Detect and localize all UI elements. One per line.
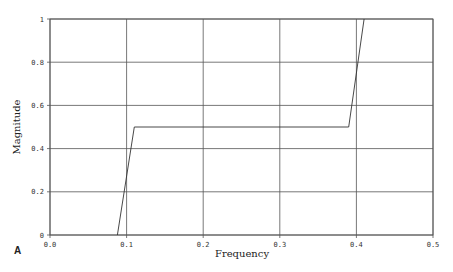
- x-axis-title: Frequency: [215, 248, 269, 259]
- x-tick-label: 0.1: [120, 241, 133, 249]
- y-tick-label: 0: [40, 232, 44, 240]
- data-series: [117, 19, 364, 235]
- magnitude-frequency-chart: 0.00.10.20.30.40.5 00.20.40.60.81 Freque…: [0, 0, 453, 272]
- y-tick-label: 0.4: [31, 145, 44, 153]
- y-axis-title: Magnitude: [11, 99, 22, 154]
- x-tick-label: 0.0: [44, 241, 57, 249]
- x-tick-label: 0.5: [427, 241, 440, 249]
- y-axis-ticks: 00.20.40.60.81: [31, 16, 50, 240]
- x-tick-label: 0.4: [350, 241, 363, 249]
- x-tick-label: 0.3: [273, 241, 286, 249]
- y-tick-label: 1: [40, 16, 44, 24]
- panel-label: A: [14, 245, 21, 256]
- x-tick-label: 0.2: [197, 241, 210, 249]
- y-tick-label: 0.2: [31, 188, 44, 196]
- y-tick-label: 0.6: [31, 102, 44, 110]
- x-axis-ticks: 0.00.10.20.30.40.5: [44, 235, 440, 249]
- magnitude-line: [117, 19, 364, 235]
- y-tick-label: 0.8: [31, 59, 44, 67]
